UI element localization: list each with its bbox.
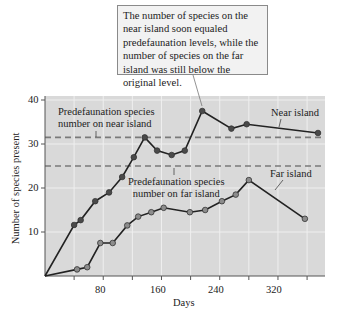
far-island-data-point [161,205,167,211]
near-island-data-point [92,198,98,204]
near-predef-label: Predefaunation species number on near is… [58,106,155,130]
far-island-data-point [302,216,308,222]
near-island-data-point [119,174,125,180]
far-island-data-point [246,177,252,183]
far-island-data-point [124,223,130,229]
near-island-data-point [142,135,148,141]
y-tick-20: 20 [28,182,39,193]
near-island-data-point [244,121,250,127]
far-island-data-point [110,240,116,246]
near-island-data-point [131,154,137,160]
near-island-data-point [229,126,235,132]
near-island-data-point [78,217,84,223]
x-axis-label: Days [173,297,195,308]
y-tick-40: 40 [28,94,39,105]
far-island-series-label: Far island [270,168,312,180]
near-island-data-point [71,222,77,228]
x-tick-320: 320 [266,284,282,295]
far-island-data-point [233,192,239,198]
near-island-data-point [182,148,188,154]
y-axis-label: Number of species present [10,119,21,259]
near-island-data-point [315,130,321,136]
far-island-data-point [187,209,193,215]
near-predef-label-line2: number on near island [58,118,155,130]
x-tick-240: 240 [208,284,224,295]
callout-annotation: The number of species on the near island… [117,5,268,75]
x-tick-160: 160 [150,284,166,295]
near-island-series-label: Near island [271,107,319,119]
near-island-data-point [199,108,205,114]
far-island-data-point [98,240,104,246]
far-predef-label-line1: Predefaunation species [128,176,225,188]
near-island-data-point [106,190,112,196]
near-predef-label-line1: Predefaunation species [58,106,155,118]
far-island-data-point [148,209,154,215]
far-island-data-point [202,207,208,213]
x-tick-80: 80 [95,284,106,295]
near-island-data-point [154,148,160,154]
far-island-data-point [135,214,141,220]
near-island-data-point [169,152,175,158]
y-tick-10: 10 [28,226,39,237]
y-tick-30: 30 [28,138,39,149]
far-island-data-point [84,264,90,270]
far-predef-label: Predefaunation species number on far isl… [128,176,225,200]
far-predef-label-line2: number on far island [128,188,225,200]
far-island-data-point [74,267,80,273]
